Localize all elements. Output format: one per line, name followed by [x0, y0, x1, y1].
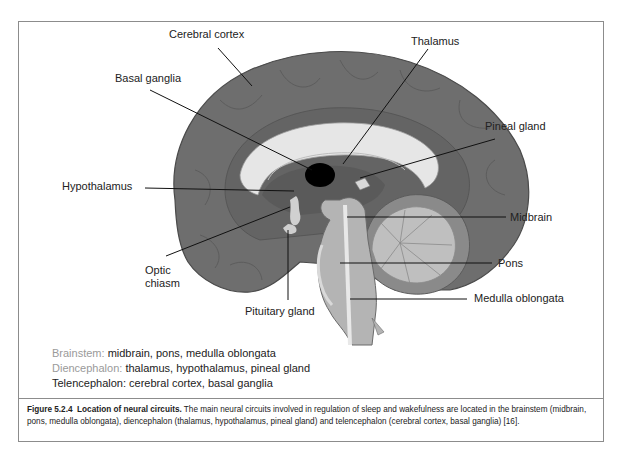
- label-basal-ganglia: Basal ganglia: [115, 72, 181, 85]
- label-optic-chiasm-2: chiasm: [145, 277, 180, 290]
- brain-sagittal-illustration: [0, 0, 625, 461]
- legend-value: thalamus, hypothalamus, pineal gland: [125, 362, 310, 374]
- legend-telencephalon: Telencephalon: cerebral cortex, basal ga…: [52, 376, 273, 390]
- label-thalamus: Thalamus: [411, 35, 459, 48]
- legend-diencephalon: Diencephalon: thalamus, hypothalamus, pi…: [52, 361, 310, 375]
- legend-key: Telencephalon:: [52, 377, 126, 389]
- legend-value: cerebral cortex, basal ganglia: [129, 377, 273, 389]
- label-cerebral-cortex: Cerebral cortex: [169, 28, 244, 41]
- label-optic-chiasm-1: Optic: [145, 264, 171, 277]
- legend-key: Brainstem:: [52, 347, 105, 359]
- label-medulla-oblongata: Medulla oblongata: [474, 292, 564, 305]
- caption-divider: [18, 398, 604, 399]
- label-hypothalamus: Hypothalamus: [62, 180, 132, 193]
- legend-brainstem: Brainstem: midbrain, pons, medulla oblon…: [52, 346, 276, 360]
- label-pons: Pons: [498, 257, 523, 270]
- label-pineal-gland: Pineal gland: [485, 120, 546, 133]
- legend-key: Diencephalon:: [52, 362, 122, 374]
- label-midbrain: Midbrain: [510, 211, 552, 224]
- figure-caption: Figure 5.2.4 Location of neural circuits…: [27, 404, 597, 428]
- legend-value: midbrain, pons, medulla oblongata: [108, 347, 276, 359]
- label-pituitary-gland: Pituitary gland: [245, 305, 315, 318]
- figure-title: Location of neural circuits.: [77, 405, 182, 414]
- basal-ganglia-marker: [305, 163, 335, 187]
- figure-number: Figure 5.2.4: [27, 405, 73, 414]
